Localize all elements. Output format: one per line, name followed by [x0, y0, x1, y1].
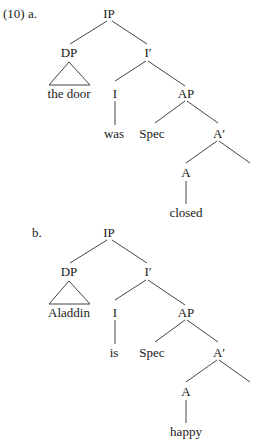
tree-branches-b [0, 219, 261, 443]
subject-text: the door [48, 87, 91, 101]
node-spec: Spec [139, 346, 164, 360]
tree-branches-a [0, 0, 261, 224]
node-dp: DP [61, 46, 78, 60]
node-i: I [113, 306, 117, 320]
node-i: I [113, 87, 117, 101]
node-abar: A′ [213, 346, 225, 360]
node-ip: IP [103, 7, 115, 21]
node-ibar: I′ [144, 265, 151, 279]
syntax-tree-b: b. IP DP I′ Aladdin I AP is Spec A′ A ha… [0, 219, 261, 443]
node-ap: AP [178, 306, 195, 320]
infl-word: is [110, 346, 119, 360]
node-a: A [181, 166, 190, 180]
adj-word: closed [169, 206, 202, 220]
node-dp: DP [61, 265, 78, 279]
node-ibar: I′ [144, 46, 151, 60]
example-label: b. [32, 226, 42, 240]
infl-word: was [104, 127, 124, 141]
node-abar: A′ [213, 127, 225, 141]
node-ap: AP [178, 87, 195, 101]
node-a: A [181, 385, 190, 399]
syntax-tree-a: (10) a. IP DP I′ the door I AP was Spec … [0, 0, 261, 224]
node-spec: Spec [139, 127, 164, 141]
adj-word: happy [170, 425, 202, 439]
example-label: (10) a. [3, 7, 37, 21]
subject-text: Aladdin [48, 306, 90, 320]
node-ip: IP [103, 226, 115, 240]
